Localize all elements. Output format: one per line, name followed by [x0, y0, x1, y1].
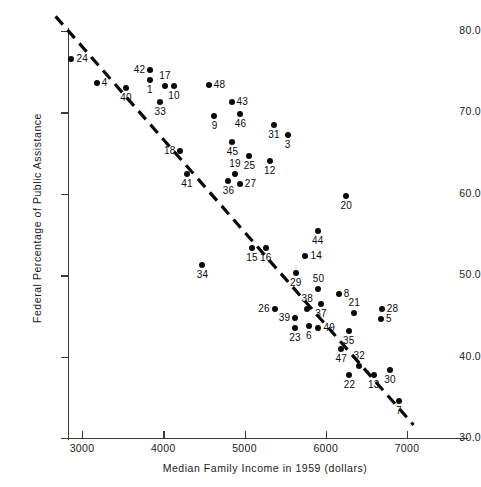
data-point — [232, 171, 238, 177]
data-point — [184, 171, 190, 177]
data-point-label: 6 — [306, 330, 312, 341]
data-point — [346, 372, 352, 378]
data-point — [206, 82, 212, 88]
y-tick-label: 40.0 — [425, 350, 481, 362]
data-point-label: 25 — [244, 160, 256, 171]
y-tick-label: 50.0 — [425, 268, 481, 280]
data-point — [343, 193, 349, 199]
x-tick — [82, 431, 83, 439]
data-point — [292, 315, 298, 321]
data-point — [199, 262, 205, 268]
data-point-label: 48 — [214, 79, 226, 90]
data-point-label: 10 — [168, 90, 180, 101]
data-point-label: 31 — [268, 129, 280, 140]
data-point-label: 21 — [349, 297, 361, 308]
data-point-label: 38 — [301, 293, 313, 304]
y-axis-line — [68, 28, 69, 440]
data-point — [246, 153, 252, 159]
x-tick-label: 4000 — [133, 442, 193, 454]
data-point — [396, 398, 402, 404]
x-tick-label: 5000 — [215, 442, 275, 454]
data-point-label: 7 — [396, 405, 402, 416]
data-point — [346, 328, 352, 334]
data-point-label: 27 — [245, 178, 257, 189]
data-point-label: 50 — [313, 273, 325, 284]
data-point — [123, 85, 129, 91]
data-point-label: 37 — [315, 308, 327, 319]
data-point-label: 19 — [229, 158, 241, 169]
data-point — [338, 346, 344, 352]
data-point — [318, 301, 324, 307]
x-tick — [245, 431, 246, 439]
data-point — [225, 178, 231, 184]
data-point — [293, 270, 299, 276]
data-point-label: 17 — [159, 70, 171, 81]
data-point-label: 16 — [260, 252, 272, 263]
data-point-label: 39 — [279, 312, 291, 323]
data-point-label: 24 — [76, 53, 88, 64]
data-point-label: 40 — [120, 92, 132, 103]
data-point — [147, 67, 153, 73]
data-point-label: 3 — [285, 139, 291, 150]
data-point — [263, 245, 269, 251]
data-point — [304, 306, 310, 312]
data-point — [272, 306, 278, 312]
data-point — [387, 367, 393, 373]
y-tick-label: 80.0 — [425, 24, 481, 36]
y-tick — [61, 194, 69, 195]
data-point — [237, 181, 243, 187]
data-point-label: 43 — [237, 96, 249, 107]
data-point-label: 23 — [289, 332, 301, 343]
data-point — [356, 363, 362, 369]
data-point — [249, 245, 255, 251]
data-point-label: 33 — [154, 106, 166, 117]
data-point — [157, 99, 163, 105]
data-point-label: 5 — [386, 313, 392, 324]
data-point — [177, 148, 183, 154]
data-point-label: 14 — [310, 250, 322, 261]
data-point — [267, 158, 273, 164]
data-point-label: 49 — [323, 322, 335, 333]
data-point-label: 18 — [164, 145, 176, 156]
data-point — [162, 83, 168, 89]
data-point — [237, 111, 243, 117]
data-point — [336, 291, 342, 297]
data-point — [302, 253, 308, 259]
y-tick — [61, 438, 69, 439]
x-tick — [163, 431, 164, 439]
y-tick-label: 60.0 — [425, 187, 481, 199]
data-point-label: 45 — [227, 146, 239, 157]
data-point — [211, 113, 217, 119]
data-point — [306, 323, 312, 329]
y-axis-label: Federal Percentage of Public Assistance — [31, 93, 43, 343]
data-point-label: 13 — [368, 379, 380, 390]
data-point — [379, 306, 385, 312]
x-axis-label: Median Family Income in 1959 (dollars) — [65, 462, 465, 474]
data-point-label: 15 — [246, 252, 258, 263]
x-tick — [407, 431, 408, 439]
data-point — [271, 122, 277, 128]
data-point — [229, 99, 235, 105]
data-point-label: 35 — [343, 335, 355, 346]
y-tick — [61, 31, 69, 32]
data-point — [315, 325, 321, 331]
data-point-label: 32 — [353, 350, 365, 361]
data-point — [147, 77, 153, 83]
data-point — [229, 139, 235, 145]
data-point-label: 42 — [134, 64, 146, 75]
data-point-label: 34 — [197, 269, 209, 280]
y-tick — [61, 275, 69, 276]
data-point-label: 30 — [384, 374, 396, 385]
data-point-label: 20 — [340, 200, 352, 211]
data-point-label: 12 — [264, 165, 276, 176]
data-point-label: 41 — [181, 178, 193, 189]
y-tick — [61, 112, 69, 113]
x-tick — [326, 431, 327, 439]
data-point — [292, 325, 298, 331]
y-tick-label: 70.0 — [425, 105, 481, 117]
data-point-label: 46 — [235, 118, 247, 129]
x-tick-label: 7000 — [377, 442, 437, 454]
data-point — [371, 372, 377, 378]
data-point — [315, 286, 321, 292]
x-tick-label: 6000 — [296, 442, 356, 454]
